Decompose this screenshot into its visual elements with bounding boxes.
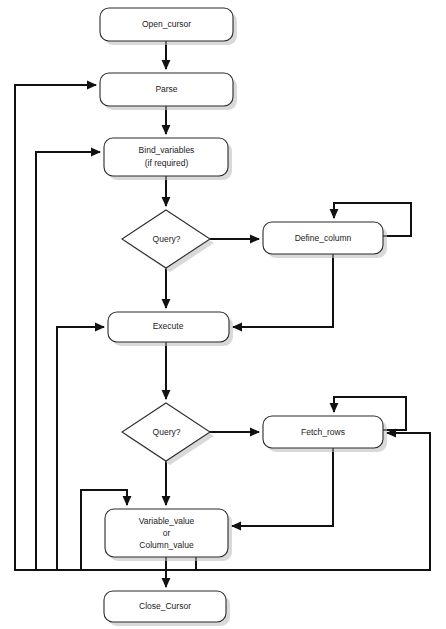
define-column-label: Define_column	[295, 233, 352, 243]
bind-variables-box	[104, 138, 228, 176]
flowchart-canvas: Open_cursor Parse Bind_variables (if req…	[0, 0, 446, 629]
node-execute[interactable]: Execute	[108, 312, 233, 346]
flowchart-svg: Open_cursor Parse Bind_variables (if req…	[0, 0, 446, 629]
query-1-label: Query?	[153, 234, 181, 244]
node-open-cursor[interactable]: Open_cursor	[100, 8, 237, 45]
bind-variables-label-line2: (if required)	[145, 158, 189, 168]
open-cursor-label: Open_cursor	[142, 19, 191, 29]
variable-value-label-line1: Variable_value	[139, 516, 195, 526]
node-fetch-rows[interactable]: Fetch_rows	[263, 416, 387, 452]
parse-label: Parse	[155, 84, 177, 94]
bind-variables-label-line1: Bind_variables	[139, 145, 195, 155]
query-2-label: Query?	[153, 427, 181, 437]
node-query-decision-2[interactable]: Query?	[122, 403, 214, 465]
node-query-decision-1[interactable]: Query?	[122, 210, 214, 272]
node-close-cursor[interactable]: Close_Cursor	[104, 591, 230, 626]
variable-value-label-line3: Column_value	[139, 540, 194, 550]
node-parse[interactable]: Parse	[100, 73, 237, 110]
fetch-rows-label: Fetch_rows	[301, 427, 345, 437]
node-bind-variables[interactable]: Bind_variables (if required)	[104, 138, 232, 180]
variable-value-label-line2: or	[163, 528, 171, 538]
node-variable-value[interactable]: Variable_value or Column_value	[105, 509, 232, 561]
node-layer: Open_cursor Parse Bind_variables (if req…	[100, 8, 387, 626]
close-cursor-label: Close_Cursor	[139, 601, 191, 611]
node-define-column[interactable]: Define_column	[263, 222, 387, 258]
edge-define-to-execute	[233, 254, 333, 327]
execute-label: Execute	[153, 321, 184, 331]
edge-fetch-to-variable	[232, 448, 333, 526]
